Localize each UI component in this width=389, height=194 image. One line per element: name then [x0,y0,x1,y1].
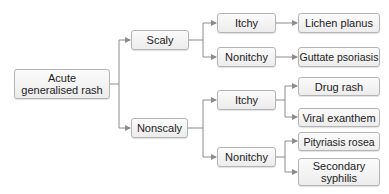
node-label-line1: Secondary [313,160,366,172]
node-lichen-planus: Lichen planus [298,13,380,33]
node-label: Drug rash [315,81,363,93]
node-label: Viral exanthem [302,112,375,124]
node-viral-exanthem: Viral exanthem [298,108,380,127]
node-label: Nonitchy [225,51,268,63]
node-scaly-itchy: Itchy [217,13,276,33]
node-nonscaly-nonitchy: Nonitchy [217,147,276,167]
node-label-line1: Acute [48,72,76,84]
node-scaly-nonitchy: Nonitchy [217,47,276,67]
node-label: Itchy [235,17,258,29]
node-label: Itchy [235,94,258,106]
node-drug-rash: Drug rash [298,77,380,96]
node-label: Nonscaly [137,122,182,134]
node-label: Pityriasis rosea [303,136,374,148]
node-scaly: Scaly [131,30,189,50]
node-acute-generalised-rash: Acute generalised rash [14,69,110,99]
node-pityriasis-rosea: Pityriasis rosea [298,132,380,151]
node-label: Nonitchy [225,151,268,163]
node-label: Lichen planus [305,17,373,29]
node-label: Guttate psoriasis [300,51,379,63]
node-label-line2: generalised rash [21,84,102,96]
node-label: Scaly [147,34,174,46]
node-guttate-psoriasis: Guttate psoriasis [298,47,380,67]
node-secondary-syphilis: Secondary syphilis [298,158,380,186]
node-nonscaly: Nonscaly [131,118,188,138]
node-label-line2: syphilis [321,172,357,184]
node-nonscaly-itchy: Itchy [217,90,276,110]
